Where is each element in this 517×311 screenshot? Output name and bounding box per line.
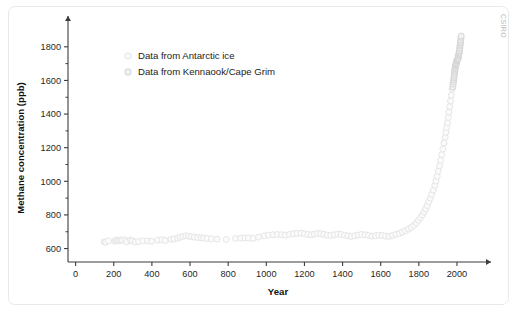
legend-label-2: Data from Kennaook/Cape Grim	[138, 66, 275, 77]
x-tick-label: 2000	[447, 269, 467, 279]
y-tick-label: 1600	[41, 76, 61, 86]
x-tick-label: 1400	[332, 269, 352, 279]
y-tick-label: 1200	[41, 143, 61, 153]
x-tick-label: 1000	[256, 269, 276, 279]
data-point	[439, 152, 445, 158]
x-tick-label: 1200	[294, 269, 314, 279]
data-point	[162, 237, 168, 243]
legend-label-1: Data from Antarctic ice	[138, 50, 235, 61]
x-tick-label: 600	[182, 269, 197, 279]
data-point	[208, 236, 214, 242]
data-point	[250, 235, 256, 241]
methane-concentration-chart-figure: 6008001000120014001600180002004006008001…	[0, 0, 517, 311]
data-point	[440, 146, 446, 152]
data-point	[438, 157, 444, 163]
x-tick-label: 1600	[370, 269, 390, 279]
data-point	[214, 236, 220, 242]
data-points-layer	[101, 33, 464, 245]
x-tick-label: 200	[106, 269, 121, 279]
y-tick-label: 1000	[41, 177, 61, 187]
chart-plot-area: 6008001000120014001600180002004006008001…	[0, 0, 517, 311]
x-axis-title: Year	[268, 286, 289, 297]
chart-legend: Data from Antarctic iceData from Kennaoo…	[125, 50, 275, 77]
legend-marker-2	[125, 69, 131, 75]
data-point	[256, 234, 262, 240]
x-tick-label: 800	[220, 269, 235, 279]
y-tick-label: 1400	[41, 109, 61, 119]
csiro-credit-label: CSIRO	[500, 14, 507, 38]
data-point	[448, 92, 454, 98]
series-1	[101, 80, 456, 245]
x-tick-label: 0	[73, 269, 78, 279]
y-tick-label: 800	[46, 210, 61, 220]
x-tick-label: 400	[144, 269, 159, 279]
y-axis-title: Methane concentration (ppb)	[15, 82, 26, 214]
data-point	[447, 104, 453, 110]
y-tick-label: 1800	[41, 42, 61, 52]
data-point	[441, 140, 447, 146]
data-point	[149, 238, 155, 244]
data-point	[448, 98, 454, 104]
legend-marker-1	[125, 53, 131, 59]
y-tick-label: 600	[46, 244, 61, 254]
data-point	[105, 238, 111, 244]
x-tick-label: 1800	[409, 269, 429, 279]
data-point	[223, 236, 229, 242]
series-2	[450, 33, 464, 90]
data-point	[458, 33, 464, 39]
